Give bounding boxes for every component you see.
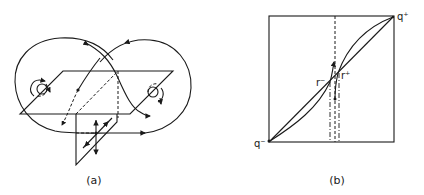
caption-a: (a): [86, 174, 101, 187]
q-minus-point: [268, 140, 271, 143]
arrow-diag-icon: [104, 122, 108, 126]
rotation-arrow-icon: [160, 98, 161, 104]
orbit-right-lobe: [100, 40, 191, 133]
arrow-diag-icon: [85, 143, 88, 146]
label-r-minus: r⁻: [316, 77, 325, 88]
diagonal-line: [270, 17, 393, 141]
orbit-point: [76, 88, 79, 91]
orbit-crossing-up: [78, 58, 100, 90]
figure-canvas: (a) q⁺ q⁻ r⁻ r⁺ (b): [0, 0, 424, 195]
label-q-minus: q⁻: [254, 138, 266, 149]
orbit-left-lobe: [15, 38, 113, 133]
label-q-plus: q⁺: [397, 11, 409, 22]
fixed-point: [95, 132, 98, 135]
caption-b: (b): [329, 174, 345, 187]
horizontal-plane: [20, 71, 173, 114]
orbit-crossing-down: [84, 42, 150, 116]
label-r-plus: r⁺: [341, 70, 350, 81]
panel-b-diagram: q⁺ q⁻ r⁻ r⁺ (b): [254, 11, 409, 187]
rotation-arrow-icon: [40, 80, 45, 81]
plane-diagonal-dashed: [76, 71, 118, 114]
q-plus-point: [392, 16, 394, 18]
panel-a-diagram: (a): [15, 38, 191, 187]
left-rotation-point: [31, 80, 50, 96]
